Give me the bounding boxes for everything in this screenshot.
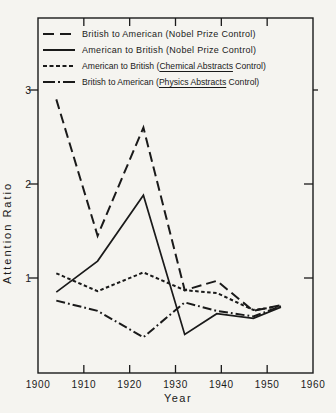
legend-text: Control) [233, 61, 266, 71]
x-tick-label: 1960 [301, 379, 326, 390]
x-tick-label: 1910 [72, 379, 97, 390]
series-american-british-nobel [56, 195, 281, 334]
y-axis-label: Attention Ratio [1, 182, 13, 284]
legend-text: Control) [226, 77, 259, 87]
y-tick-label: 1 [25, 272, 31, 284]
legend-label: British to American (Physics Abstracts C… [82, 77, 259, 87]
legend-sample-dash-dot-line [42, 79, 76, 85]
legend-text-underlined: Physics Abstracts [159, 77, 226, 87]
legend-text-underlined: Chemical Abstracts [159, 61, 233, 71]
legend-sample-short-dash-line [42, 63, 76, 69]
legend-sample-solid-line [42, 47, 76, 53]
y-tick-label: 2 [25, 178, 31, 190]
legend-entry-british-american-nobel: British to American (Nobel Prize Control… [42, 27, 256, 40]
x-axis-label: Year [164, 392, 192, 404]
x-tick-label: 1920 [117, 379, 142, 390]
x-tick-label: 1930 [163, 379, 188, 390]
x-tick-labels: 1900191019201930194019501960 [26, 379, 326, 390]
figure-canvas: 1900191019201930194019501960 123 Attenti… [0, 0, 336, 413]
y-tick-labels: 123 [25, 84, 31, 284]
legend-label: American to British (Nobel Prize Control… [82, 45, 256, 55]
legend-entry-american-british-nobel: American to British (Nobel Prize Control… [42, 43, 256, 56]
series-lines [56, 99, 281, 337]
legend-text: American to British ( [82, 61, 159, 71]
legend-text: American to British (Nobel Prize Control… [82, 45, 256, 55]
legend-text: British to American ( [82, 77, 159, 87]
x-tick-label: 1950 [255, 379, 280, 390]
x-tick-label: 1940 [209, 379, 234, 390]
legend-text: British to American (Nobel Prize Control… [82, 29, 256, 39]
legend-sample-long-dash-line [42, 31, 76, 37]
y-tick-label: 3 [25, 84, 31, 96]
x-tick-label: 1900 [26, 379, 51, 390]
legend-entry-american-british-chem: American to British (Chemical Abstracts … [42, 59, 266, 72]
legend-label: British to American (Nobel Prize Control… [82, 29, 256, 39]
legend-entry-british-american-physics: British to American (Physics Abstracts C… [42, 75, 259, 88]
legend-label: American to British (Chemical Abstracts … [82, 61, 266, 71]
